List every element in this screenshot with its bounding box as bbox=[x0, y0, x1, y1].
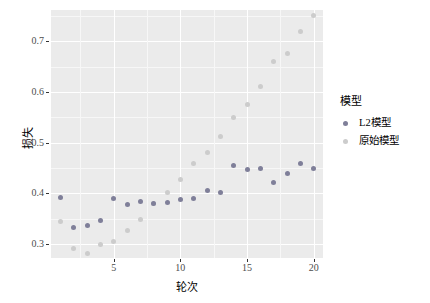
gridline-horizontal-major bbox=[51, 244, 323, 245]
data-point bbox=[298, 29, 303, 34]
gridline-vertical-minor bbox=[80, 10, 81, 258]
data-point bbox=[271, 59, 276, 64]
data-point bbox=[165, 190, 170, 195]
data-point bbox=[311, 166, 316, 171]
gridline-horizontal-minor bbox=[51, 16, 323, 17]
data-point bbox=[218, 134, 223, 139]
data-point bbox=[298, 161, 303, 166]
legend-title: 模型 bbox=[340, 95, 427, 107]
data-point bbox=[231, 115, 236, 120]
legend-label: L2模型 bbox=[359, 117, 391, 129]
gridline-vertical-major bbox=[180, 10, 181, 258]
legend-key bbox=[337, 115, 353, 131]
gridline-vertical-major bbox=[114, 10, 115, 258]
gridline-horizontal-major bbox=[51, 92, 323, 93]
data-point bbox=[245, 102, 250, 107]
x-tick-label: 5 bbox=[99, 263, 129, 273]
data-point bbox=[178, 177, 183, 182]
x-tick-mark bbox=[247, 259, 248, 262]
data-point bbox=[125, 228, 130, 233]
x-axis-title: 轮次 bbox=[51, 281, 323, 293]
data-point bbox=[258, 166, 263, 171]
x-tick-label: 10 bbox=[165, 263, 195, 273]
legend-dot-icon bbox=[343, 139, 348, 144]
data-point bbox=[58, 219, 63, 224]
data-point bbox=[245, 167, 250, 172]
gridline-vertical-major bbox=[247, 10, 248, 258]
data-point bbox=[71, 246, 76, 251]
data-point bbox=[138, 217, 143, 222]
data-point bbox=[85, 223, 90, 228]
gridline-vertical-minor bbox=[280, 10, 281, 258]
gridline-horizontal-major bbox=[51, 193, 323, 194]
data-point bbox=[258, 84, 263, 89]
data-point bbox=[205, 150, 210, 155]
data-point bbox=[138, 199, 143, 204]
legend: 模型 L2模型原始模型 bbox=[337, 95, 427, 150]
gridline-horizontal-minor bbox=[51, 168, 323, 169]
data-point bbox=[85, 251, 90, 256]
legend-item-base-model[interactable]: 原始模型 bbox=[337, 132, 427, 150]
gridline-vertical-minor bbox=[214, 10, 215, 258]
data-point bbox=[111, 196, 116, 201]
x-tick-label: 15 bbox=[232, 263, 262, 273]
plot-panel bbox=[51, 10, 323, 258]
x-tick-mark bbox=[114, 259, 115, 262]
legend-dot-icon bbox=[343, 121, 348, 126]
x-tick-mark bbox=[180, 259, 181, 262]
data-point bbox=[71, 225, 76, 230]
data-point bbox=[98, 242, 103, 247]
data-point bbox=[191, 196, 196, 201]
data-point bbox=[98, 218, 103, 223]
x-tick-label: 20 bbox=[299, 263, 329, 273]
data-point bbox=[125, 202, 130, 207]
gridline-horizontal-minor bbox=[51, 219, 323, 220]
data-point bbox=[151, 201, 156, 206]
gridline-horizontal-major bbox=[51, 143, 323, 144]
data-point bbox=[58, 195, 63, 200]
data-point bbox=[311, 13, 316, 18]
gridline-horizontal-major bbox=[51, 41, 323, 42]
legend-key bbox=[337, 133, 353, 149]
data-point bbox=[205, 188, 210, 193]
data-point bbox=[271, 180, 276, 185]
x-tick-mark bbox=[314, 259, 315, 262]
data-point bbox=[218, 190, 223, 195]
gridline-vertical-minor bbox=[147, 10, 148, 258]
data-point bbox=[178, 197, 183, 202]
data-point bbox=[285, 51, 290, 56]
data-point bbox=[191, 161, 196, 166]
legend-entries: L2模型原始模型 bbox=[337, 114, 427, 150]
gridline-horizontal-minor bbox=[51, 117, 323, 118]
legend-label: 原始模型 bbox=[359, 135, 399, 147]
gridline-vertical-major bbox=[314, 10, 315, 258]
data-point bbox=[285, 171, 290, 176]
gridline-horizontal-minor bbox=[51, 67, 323, 68]
scatter-plot-figure: 损失 0.30.40.50.60.7 5101520 轮次 模型 L2模型原始模… bbox=[0, 0, 430, 303]
legend-item-l2-model[interactable]: L2模型 bbox=[337, 114, 427, 132]
data-point bbox=[165, 200, 170, 205]
